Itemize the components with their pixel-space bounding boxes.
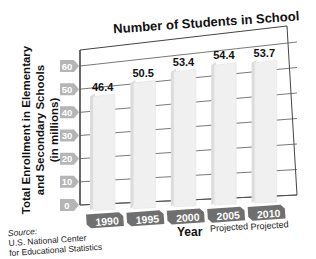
y-tick-label: 60 — [62, 61, 73, 72]
category-tag: 2010Projected — [248, 204, 289, 232]
bar-2010: 53.7 — [252, 47, 277, 203]
bar-1990: 46.4 — [90, 81, 115, 211]
y-tick-tag: 20 — [60, 153, 79, 165]
y-tick-tag: 0 — [60, 199, 79, 211]
y-tick-label: 50 — [62, 84, 73, 95]
y-axis-ticks: 0102030405060 — [60, 60, 79, 211]
category-tag: 1990 — [86, 212, 124, 229]
category-tag: 2000 — [167, 208, 205, 225]
category-note: Projected — [210, 221, 249, 234]
x-axis-label: Year — [177, 225, 203, 239]
y-tick-tag: 40 — [60, 106, 79, 118]
category-label: 2000 — [176, 211, 200, 225]
svg-text:and Secondary Schools: and Secondary Schools — [34, 65, 46, 195]
svg-text:Total Enrollment in Elementary: Total Enrollment in Elementary — [20, 45, 32, 214]
category-tag: 1995 — [126, 210, 164, 227]
y-tick-label: 30 — [62, 130, 73, 141]
value-label: 50.5 — [132, 67, 153, 79]
category-label: 2005 — [216, 209, 240, 223]
category-tag: 2005Projected — [207, 206, 248, 234]
value-label: 53.7 — [254, 47, 275, 59]
enrollment-bar-chart: Number of Students in School Total Enrol… — [0, 0, 316, 259]
y-tick-label: 20 — [62, 153, 73, 164]
y-tick-tag: 60 — [60, 60, 79, 72]
category-note: Projected — [250, 219, 289, 232]
category-label: 1995 — [135, 212, 159, 226]
value-label: 46.4 — [92, 81, 114, 93]
y-tick-tag: 10 — [60, 176, 79, 188]
y-tick-label: 0 — [64, 200, 69, 211]
svg-text:(in millions): (in millions) — [48, 98, 60, 163]
y-tick-tag: 30 — [60, 130, 79, 142]
category-label: 2010 — [257, 207, 281, 221]
bar-2000: 53.4 — [171, 56, 196, 207]
value-label: 54.4 — [213, 49, 235, 61]
category-label: 1990 — [95, 214, 119, 228]
y-tick-tag: 50 — [60, 83, 79, 95]
y-tick-label: 10 — [62, 176, 73, 187]
bar-1995: 50.5 — [130, 67, 155, 209]
source-note: Source: U.S. National Center for Educati… — [8, 222, 103, 258]
y-axis-label: Total Enrollment in Elementary and Secon… — [20, 45, 60, 214]
bar-2005: 54.4 — [211, 49, 236, 205]
value-label: 53.4 — [173, 56, 195, 68]
y-tick-label: 40 — [62, 107, 73, 118]
